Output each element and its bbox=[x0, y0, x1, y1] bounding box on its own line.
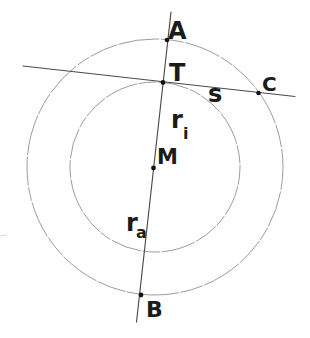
label-s: s bbox=[208, 80, 222, 108]
label-ra-subscript: a bbox=[136, 223, 147, 242]
label-T: T bbox=[169, 59, 186, 87]
label-ri-subscript: i bbox=[183, 124, 188, 143]
geometry-diagram: ATCsriMraB bbox=[0, 0, 310, 338]
point-T bbox=[161, 80, 166, 85]
point-B bbox=[139, 293, 144, 298]
label-A: A bbox=[168, 17, 187, 45]
label-B: B bbox=[146, 297, 163, 322]
point-C bbox=[256, 91, 261, 96]
label-C: C bbox=[262, 72, 277, 96]
diagram-svg: ATCsriMraB bbox=[0, 0, 310, 338]
label-M: M bbox=[157, 145, 178, 169]
point-M bbox=[151, 166, 156, 171]
label-ra: ra bbox=[126, 209, 147, 242]
scan-artifact bbox=[0, 235, 7, 236]
label-ri: ri bbox=[171, 106, 188, 143]
tangent-line-TC bbox=[23, 66, 295, 97]
